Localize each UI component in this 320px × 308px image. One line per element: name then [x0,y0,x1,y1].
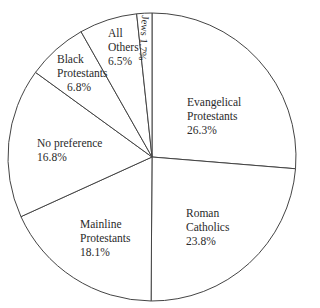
label-line: Roman [186,206,229,220]
label-value: 26.3% [187,123,241,137]
label-mainline-protestants: Mainline Protestants 18.1% [80,217,130,259]
label-no-preference: No preference 16.8% [37,136,102,164]
label-line: All [108,26,139,40]
label-line: Black [57,52,107,66]
label-roman-catholics: Roman Catholics 23.8% [186,206,229,248]
label-value: 16.8% [37,150,102,164]
label-value: 6.8% [57,80,107,94]
label-value: 6.5% [108,54,139,68]
label-value: 18.1% [80,245,130,259]
label-evangelical-protestants: Evangelical Protestants 26.3% [187,95,241,137]
label-line: No preference [37,136,102,150]
label-line: Protestants [80,231,130,245]
label-line: Protestants [187,109,241,123]
label-line: Catholics [186,220,229,234]
label-all-others: All Others 6.5% [108,26,139,68]
label-line: Others [108,40,139,54]
label-black-protestants: Black Protestants 6.8% [57,52,107,94]
pie-slice-evangelical-protestants [152,13,296,169]
label-line: Evangelical [187,95,241,109]
label-value: 23.8% [186,234,229,248]
label-line: Mainline [80,217,130,231]
label-line: Protestants [57,66,107,80]
